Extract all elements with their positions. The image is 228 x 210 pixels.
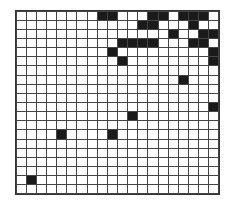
grid-cell[interactable]	[208, 184, 219, 194]
pixel-grid	[15, 10, 220, 195]
